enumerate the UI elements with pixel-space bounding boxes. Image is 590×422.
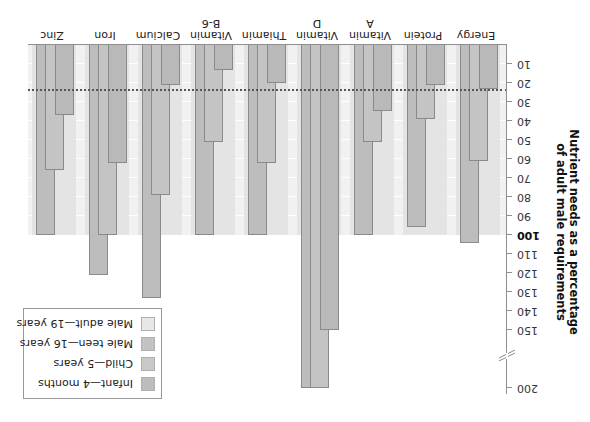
bar-infant-1: [426, 45, 445, 85]
y-tick: [506, 272, 512, 273]
category-label-line: Vitamin: [340, 29, 400, 41]
legend-label: Male teen—16 years: [20, 338, 133, 351]
y-tick-label: 60: [517, 153, 547, 165]
y-tick-label: 150: [517, 324, 547, 336]
category-label-line: D: [287, 17, 347, 29]
legend-label: Infant—4 months: [38, 378, 133, 391]
y-tick: [506, 215, 512, 216]
legend-swatch: [141, 317, 155, 331]
category-label-line: B-6: [181, 17, 241, 29]
y-tick: [506, 120, 512, 121]
category-label: Calcium: [128, 29, 188, 41]
category-label-line: Calcium: [128, 29, 188, 41]
y-tick-label: 80: [517, 191, 547, 203]
y-tick: [506, 101, 512, 102]
y-tick: [506, 63, 512, 64]
y-tick-label: 40: [517, 115, 547, 127]
y-tick: [506, 139, 512, 140]
category-label: Iron: [75, 29, 135, 41]
legend: Infant—4 months Child—5 years Male teen—…: [23, 308, 162, 399]
category-label: VitaminB-6: [181, 17, 241, 41]
category-label-line: Vitamin: [287, 29, 347, 41]
legend-item-infant: Infant—4 months: [38, 376, 155, 392]
category-label-line: Energy: [446, 29, 506, 41]
y-tick: [506, 82, 512, 83]
category-label: VitaminA: [340, 17, 400, 41]
bar-infant-4: [267, 45, 286, 83]
y-tick-label: 120: [517, 267, 547, 279]
legend-label: Child—5 years: [53, 358, 133, 371]
y-tick: [506, 253, 512, 254]
y-tick: [506, 387, 512, 388]
y-tick-label: 200: [517, 382, 547, 394]
y-tick: [506, 196, 512, 197]
y-tick: [506, 310, 512, 311]
bar-infant-8: [55, 45, 74, 115]
y-axis-label-line-1: Nutrient needs as a percentage: [567, 122, 580, 342]
category-label-line: Iron: [75, 29, 135, 41]
category-label-line: A: [340, 17, 400, 29]
category-label-line: Protein: [393, 29, 453, 41]
y-tick: [506, 329, 512, 330]
bar-infant-5: [214, 45, 233, 70]
y-tick-label: 90: [517, 210, 547, 222]
y-tick-label: 130: [517, 286, 547, 298]
category-label: Zinc: [22, 29, 82, 41]
nutrient-needs-chart: Nutrient needs as a percentage of adult …: [0, 0, 590, 422]
y-tick-label: 140: [517, 305, 547, 317]
legend-item-adult: Male adult—19 years: [17, 316, 155, 332]
y-tick: [506, 177, 512, 178]
category-label: VitaminD: [287, 17, 347, 41]
category-label-line: Thiamin: [234, 29, 294, 41]
legend-item-teen: Male teen—16 years: [20, 336, 155, 352]
y-tick-label: 20: [517, 77, 547, 89]
category-label-line: Zinc: [22, 29, 82, 41]
y-axis-label: Nutrient needs as a percentage of adult …: [554, 122, 580, 342]
y-tick-label: 110: [517, 248, 547, 260]
y-tick-label: 10: [517, 58, 547, 70]
legend-swatch: [141, 377, 155, 391]
category-label: Energy: [446, 29, 506, 41]
category-label: Thiamin: [234, 29, 294, 41]
legend-label: Male adult—19 years: [17, 318, 133, 331]
x-axis-baseline: [28, 44, 507, 45]
bar-infant-6: [161, 45, 180, 85]
bar-infant-2: [373, 45, 392, 112]
bar-infant-0: [479, 45, 498, 89]
y-tick-label: 30: [517, 96, 547, 108]
y-tick: [506, 158, 512, 159]
legend-swatch: [141, 357, 155, 371]
bar-infant-7: [108, 45, 127, 163]
y-axis-label-line-2: of adult male requirements: [554, 122, 567, 342]
category-label: Protein: [393, 29, 453, 41]
y-tick: [506, 291, 512, 292]
legend-item-child: Child—5 years: [53, 356, 155, 372]
reference-line: [28, 89, 507, 91]
legend-swatch: [141, 337, 155, 351]
y-tick-label: 70: [517, 172, 547, 184]
category-label-line: Vitamin: [181, 29, 241, 41]
y-axis-line: [506, 45, 507, 394]
y-tick: [506, 234, 512, 235]
y-tick-label: 50: [517, 134, 547, 146]
axis-break-icon: [497, 355, 517, 365]
y-tick-label: 100: [517, 229, 547, 241]
